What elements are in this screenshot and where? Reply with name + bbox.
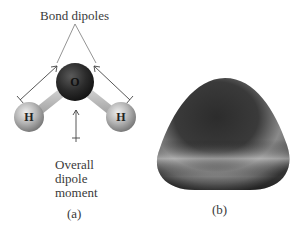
- overall-label-line-3: moment: [55, 186, 98, 200]
- caption-a: (a): [67, 206, 81, 222]
- bond-dipoles-label: Bond dipoles: [40, 8, 109, 24]
- overall-label-line-1: Overall: [55, 158, 98, 172]
- hydrogen-atom-left: H: [14, 102, 44, 132]
- water-dipole-diagram: H H O: [0, 0, 302, 230]
- oxygen-label: O: [70, 75, 79, 89]
- electrostatic-potential-surface: [157, 78, 290, 190]
- hydrogen-atom-right: H: [106, 102, 136, 132]
- overall-label-line-2: dipole: [55, 172, 98, 186]
- oxygen-atom: O: [56, 63, 94, 101]
- overall-dipole-arrow: [72, 110, 80, 142]
- caption-b: (b): [212, 202, 227, 218]
- label-leader-lines: [57, 24, 96, 63]
- overall-dipole-moment-label: Overall dipole moment: [55, 158, 98, 200]
- hydrogen-left-label: H: [24, 110, 34, 124]
- hydrogen-right-label: H: [116, 110, 126, 124]
